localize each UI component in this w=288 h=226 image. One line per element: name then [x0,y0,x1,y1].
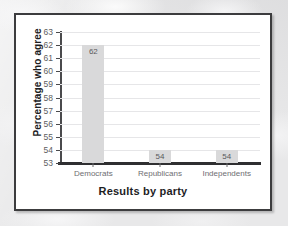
y-tick-mark [56,150,60,151]
y-tick-label: 57 [44,106,53,115]
bar-value-label: 62 [89,48,98,56]
y-tick-label: 61 [44,54,53,63]
y-tick-mark [56,58,60,59]
bar-value-label: 54 [156,153,165,161]
y-tick-mark [56,98,60,99]
bar-value-label: 54 [222,153,231,161]
x-tick-mark [93,163,94,167]
plot-area: 6362616059585756555453 625454 DemocratsR… [60,32,260,163]
x-tick-mark [226,163,227,167]
x-category-label: Democrats [74,169,113,178]
gridline [60,32,260,33]
x-axis-title: Results by party [16,185,270,197]
y-tick-mark [56,111,60,112]
y-tick-label: 58 [44,93,53,102]
bar[interactable]: 62 [82,45,104,163]
y-tick-label: 62 [44,41,53,50]
chart-card: Percentage who agree 6362616059585756555… [14,13,272,211]
y-tick-label: 59 [44,80,53,89]
y-tick-mark [56,84,60,85]
y-tick-label: 53 [44,159,53,168]
y-tick-mark [56,124,60,125]
y-tick-mark [56,137,60,138]
y-axis-title: Percentage who agree [32,13,43,153]
y-tick-mark [56,71,60,72]
y-tick-mark [56,45,60,46]
x-category-label: Independents [202,169,251,178]
y-tick-mark [56,32,60,33]
y-tick-label: 56 [44,119,53,128]
y-tick-label: 55 [44,133,53,142]
x-category-label: Republicans [138,169,182,178]
x-tick-mark [160,163,161,167]
y-tick-label: 60 [44,67,53,76]
bar[interactable]: 54 [149,150,171,163]
y-tick-label: 63 [44,28,53,37]
y-tick-mark [56,163,60,164]
bar-chart: Percentage who agree 6362616059585756555… [16,15,270,209]
y-tick-label: 54 [44,146,53,155]
bar[interactable]: 54 [216,150,238,163]
